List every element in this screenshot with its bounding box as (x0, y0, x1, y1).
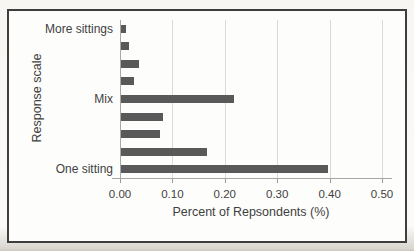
x-tick-label: 0.10 (150, 188, 194, 200)
y-axis-title: Response scale (30, 43, 44, 153)
category-label: More sittings (11, 22, 113, 36)
x-tick-label: 0.30 (255, 188, 299, 200)
x-tick-label: 0.20 (203, 188, 247, 200)
figure-frame: More sittingsMixOne sitting0.000.100.200… (7, 9, 407, 243)
x-tick-label: 0.00 (98, 188, 142, 200)
x-tick-label: 0.40 (308, 188, 352, 200)
x-axis-title: Percent of Repsondents (%) (121, 205, 381, 219)
category-label: One sitting (11, 162, 113, 176)
category-label: Mix (11, 92, 113, 106)
x-tick-label: 0.50 (360, 188, 404, 200)
